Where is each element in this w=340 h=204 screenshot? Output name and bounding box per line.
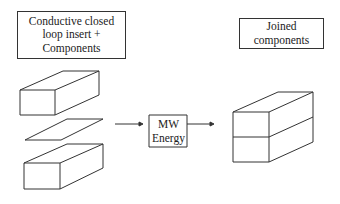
mw-energy-box: MW Energy: [149, 115, 188, 148]
input-label-box: Conductive closed loop insert + Componen…: [17, 11, 126, 59]
conductive-insert-plate: [25, 119, 103, 140]
output-label-box: Joined components: [239, 18, 324, 49]
input-label-line-1: Conductive closed: [29, 15, 114, 29]
top-component-block: [20, 71, 99, 115]
mw-energy-line-1: MW: [158, 118, 179, 132]
output-label-line-1: Joined: [266, 20, 296, 34]
mw-energy-line-2: Energy: [152, 132, 185, 146]
output-label-line-2: components: [254, 34, 310, 48]
diagram-canvas: Conductive closed loop insert + Componen…: [0, 0, 340, 204]
arrow-to-mw: [115, 122, 143, 126]
input-label-line-2: loop insert +: [42, 28, 100, 42]
bottom-component-block: [24, 144, 103, 189]
joined-stacked-block: [233, 92, 313, 162]
input-label-line-3: Components: [42, 42, 100, 56]
arrow-to-joined: [187, 122, 214, 126]
